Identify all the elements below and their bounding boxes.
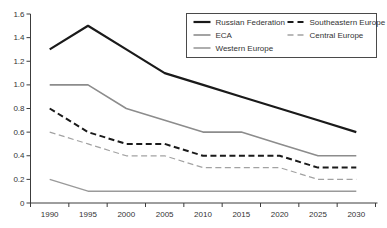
x-tick-label: 1995 [79,210,97,219]
x-tick-label: 1990 [41,210,59,219]
series-line-eca [50,85,357,156]
x-tick-label: 2000 [117,210,135,219]
x-tick-label: 2015 [232,210,250,219]
y-tick-label: 0.6 [13,128,25,137]
x-tick-label: 2025 [309,210,327,219]
y-tick-label: 1.6 [13,10,25,19]
line-chart: 00.20.40.60.81.01.21.41.6199019952000200… [0,0,387,228]
legend-label-eca: ECA [216,31,233,40]
chart-canvas: 00.20.40.60.81.01.21.41.6199019952000200… [0,0,387,228]
y-tick-label: 1.0 [13,80,25,89]
y-tick-label: 1.4 [13,33,25,42]
x-tick-label: 2010 [194,210,212,219]
x-tick-label: 2005 [156,210,174,219]
y-tick-label: 0.4 [13,151,25,160]
x-tick-label: 2020 [271,210,289,219]
x-tick-label: 2030 [347,210,365,219]
y-tick-label: 0 [20,199,25,208]
series-line-western-europe [50,179,357,191]
legend-label-western-europe: Western Europe [216,44,274,53]
legend-label-southeastern-europe: Southeastern Europe [310,18,386,27]
legend-label-russian-federation: Russian Federation [216,18,285,27]
y-tick-label: 0.2 [13,175,25,184]
legend-label-central-europe: Central Europe [310,31,364,40]
y-tick-label: 0.8 [13,104,25,113]
y-tick-label: 1.2 [13,57,25,66]
